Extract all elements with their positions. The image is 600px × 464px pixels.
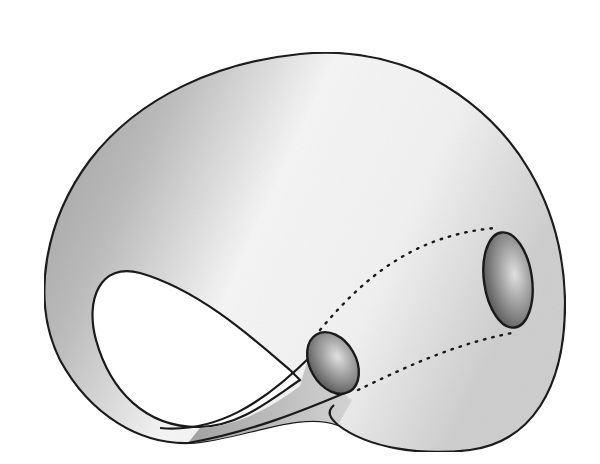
klein-bottle-drawing xyxy=(0,0,600,464)
klein-bottle-figure: Klein bottle xyxy=(0,0,600,464)
